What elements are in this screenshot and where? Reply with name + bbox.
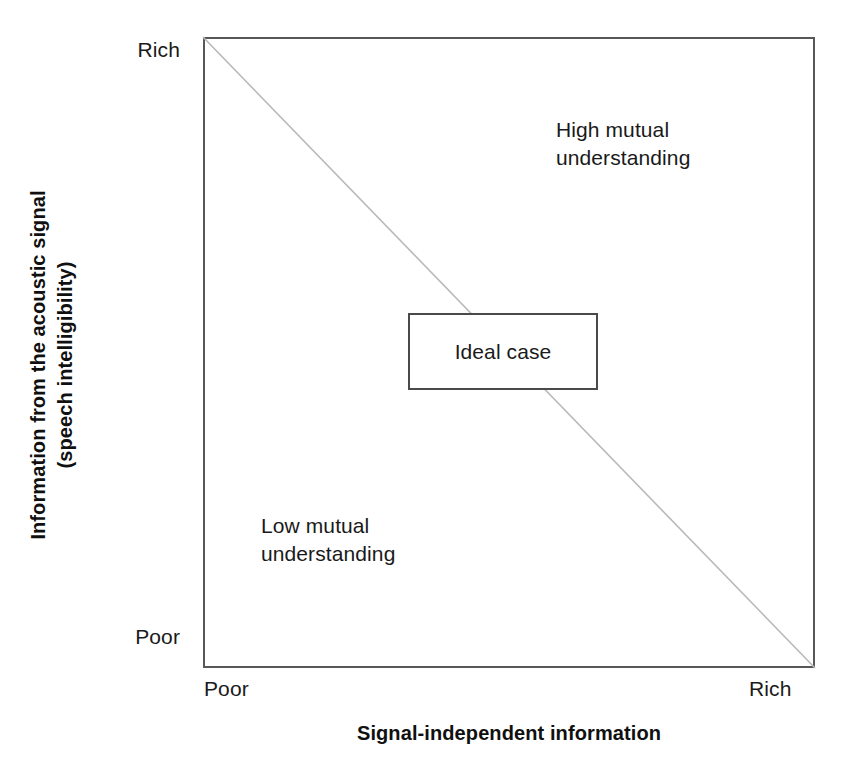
y-tick-label-poor: Poor <box>135 625 180 649</box>
y-axis-title-line-2: (speech intelligibility) <box>52 49 79 681</box>
y-tick-label-rich: Rich <box>138 38 180 62</box>
annotation-high-mutual-understanding: High mutual understanding <box>556 116 690 172</box>
x-tick-label-rich: Rich <box>749 677 791 701</box>
y-axis-title-line-1: Information from the acoustic signal <box>25 49 52 681</box>
figure-container: High mutual understanding Low mutual und… <box>0 0 841 782</box>
ideal-case-box: Ideal case <box>408 313 598 390</box>
x-axis-title: Signal-independent information <box>203 722 815 745</box>
ideal-case-label: Ideal case <box>455 340 552 364</box>
annotation-low-mutual-understanding: Low mutual understanding <box>261 512 395 568</box>
x-tick-label-poor: Poor <box>204 677 249 701</box>
y-axis-title: Information from the acoustic signal (sp… <box>25 49 79 681</box>
